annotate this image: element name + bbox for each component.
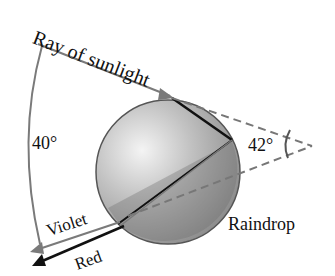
rainbow-diagram: Ray of sunlight 40° 42° Violet Red Raind… xyxy=(0,0,335,276)
red-arrowhead-icon xyxy=(32,254,46,266)
violet-arrowhead-icon xyxy=(30,242,44,254)
sunlight-arrowhead-icon xyxy=(158,88,174,100)
angle-40-label: 40° xyxy=(32,133,57,154)
angle-42-label: 42° xyxy=(248,135,273,156)
raindrop-label: Raindrop xyxy=(228,214,295,235)
